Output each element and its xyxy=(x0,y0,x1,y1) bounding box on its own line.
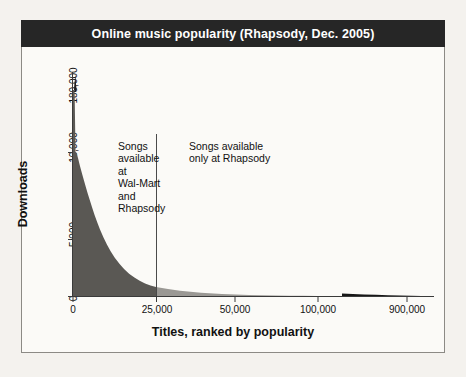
figure-root: Online music popularity (Rhapsody, Dec. … xyxy=(0,0,466,377)
x-axis-title: Titles, ranked by popularity xyxy=(22,325,444,339)
series-tail-area xyxy=(156,287,332,296)
chart-panel: Online music popularity (Rhapsody, Dec. … xyxy=(21,20,445,353)
annotation-rhapsody-only: Songs available only at Rhapsody xyxy=(189,140,270,165)
x-tick-label-100000: 100,000 xyxy=(300,304,336,315)
x-tick-label-0: 0 xyxy=(70,304,76,315)
chart-title-bar: Online music popularity (Rhapsody, Dec. … xyxy=(21,20,445,47)
x-tick-label-900000: 900,000 xyxy=(389,304,425,315)
annotation-walmart-rhapsody: Songs available at Wal-Mart and Rhapsody xyxy=(118,140,165,214)
plot-area: Downloads 180,000 10,000 5,000 0 xyxy=(22,48,444,353)
chart-title: Online music popularity (Rhapsody, Dec. … xyxy=(92,27,375,41)
series-longtail-area xyxy=(342,294,432,297)
x-tick-label-25000: 25,000 xyxy=(142,304,173,315)
x-tick-label-50000: 50,000 xyxy=(220,304,251,315)
